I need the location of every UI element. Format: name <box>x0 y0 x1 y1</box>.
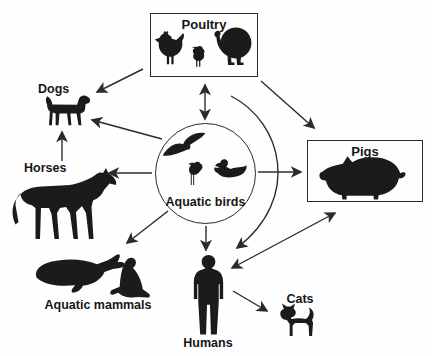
cat-icon <box>274 303 319 338</box>
hen-icon <box>153 29 187 69</box>
horse-icon <box>10 167 120 243</box>
wader-icon <box>187 159 206 188</box>
edge-pigs-humans <box>232 213 335 268</box>
flying-gull-icon <box>161 131 207 160</box>
dog-icon <box>43 92 94 132</box>
human-icon <box>184 254 233 336</box>
seal-icon <box>109 255 154 302</box>
influenza-transmission-diagram: Poultry Aquatic birds Dogs Horses Pigs A… <box>0 0 432 356</box>
aquatic-birds-label: Aquatic birds <box>155 195 256 209</box>
edge-aquaticbirds-aquaticmammals <box>127 211 168 243</box>
edge-humans-cats <box>233 291 267 311</box>
edge-poultry-dogs <box>97 69 143 92</box>
edge-poultry-pigs <box>261 81 314 128</box>
humans-label: Humans <box>178 336 238 350</box>
pig-icon <box>316 151 412 200</box>
edge-aquaticbirds-dogs <box>92 120 162 139</box>
duck-icon <box>212 157 249 184</box>
chick-icon <box>190 44 209 68</box>
turkey-icon <box>208 25 254 71</box>
